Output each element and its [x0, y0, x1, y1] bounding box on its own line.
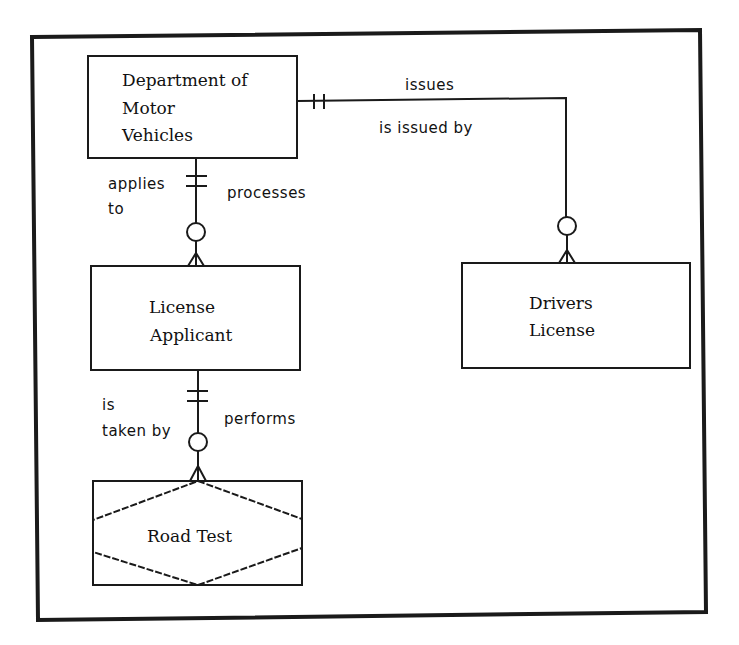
- svg-text:is taken by: is taken by: [102, 396, 171, 440]
- entity-drivers-license-box: [462, 263, 690, 368]
- entity-road-test-label: Road Test: [147, 526, 232, 546]
- entity-dmv-label-line3: Vehicles: [121, 125, 193, 145]
- relationship-label-is: is: [102, 396, 115, 414]
- entity-drivers-license[interactable]: Drivers License: [462, 263, 690, 368]
- connector-line: [297, 98, 566, 217]
- cardinality-zero-circle: [189, 433, 207, 451]
- crows-foot-icon: [190, 466, 206, 481]
- relationship-label-performs: performs: [224, 410, 296, 428]
- relationship-dmv-drivers-license[interactable]: issues is issued by: [297, 76, 576, 263]
- relationship-label-taken-by: taken by: [102, 422, 171, 440]
- entity-license-applicant[interactable]: License Applicant: [91, 266, 300, 370]
- cardinality-zero-circle: [558, 217, 576, 235]
- relationship-label-applies: applies: [108, 175, 165, 193]
- svg-text:applies to: applies to: [108, 175, 170, 218]
- relationship-label-issues: issues: [405, 76, 454, 94]
- relationship-label-processes: processes: [227, 184, 306, 202]
- entity-license-applicant-box: [91, 266, 300, 370]
- crows-foot-icon: [559, 250, 575, 263]
- entity-license-applicant-label-line2: Applicant: [149, 325, 233, 345]
- relationship-label-to: to: [108, 200, 124, 218]
- entity-road-test[interactable]: Road Test: [93, 481, 302, 585]
- relationship-label-is-issued-by: is issued by: [379, 119, 473, 137]
- svg-text:License Applicant: License Applicant: [149, 297, 233, 345]
- outer-frame: [32, 30, 706, 620]
- entity-license-applicant-label-line1: License: [149, 297, 215, 317]
- relationship-applicant-road-test[interactable]: is taken by performs: [102, 370, 296, 481]
- entity-drivers-license-label-line1: Drivers: [529, 293, 593, 313]
- crows-foot-icon: [188, 253, 204, 266]
- relationship-dmv-applicant[interactable]: applies to processes: [108, 158, 306, 266]
- entity-dmv-label-line1: Department of: [122, 70, 249, 90]
- svg-text:Department of Motor: Department of Motor Vehicles: [121, 70, 253, 145]
- entity-dmv-label-line2: Motor: [122, 98, 176, 118]
- entity-dmv[interactable]: Department of Motor Vehicles: [88, 56, 297, 158]
- er-diagram-canvas: Department of Motor Vehicles License App…: [0, 0, 739, 645]
- cardinality-zero-circle: [187, 223, 205, 241]
- svg-text:Drivers License: Drivers License: [529, 293, 598, 340]
- entity-drivers-license-label-line2: License: [529, 320, 595, 340]
